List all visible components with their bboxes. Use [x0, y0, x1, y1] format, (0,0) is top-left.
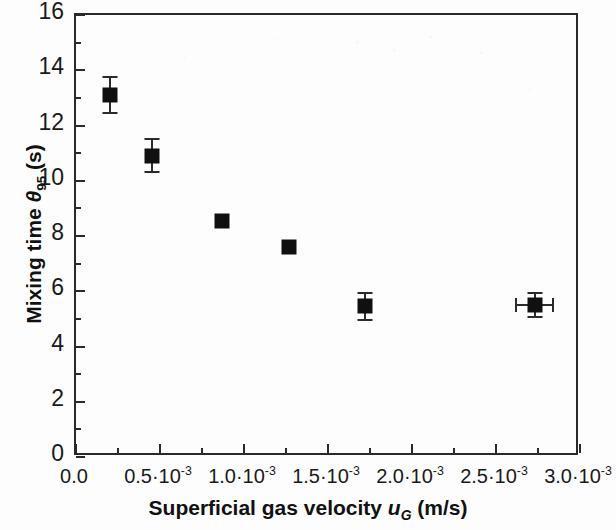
- error-bar-cap: [102, 76, 117, 78]
- error-bar-cap: [527, 316, 542, 318]
- data-point-marker: [144, 148, 159, 163]
- y-axis-minor-tick: [76, 97, 81, 99]
- error-bar-cap: [102, 112, 117, 114]
- y-axis-tick-label: 2: [14, 385, 64, 412]
- figure-container: 0246810121416 0.00.5·10-31.0·10-31.5·10-…: [0, 0, 616, 530]
- data-point-marker: [527, 298, 542, 313]
- y-axis-minor-tick: [76, 207, 81, 209]
- x-axis-tick-label: 1.5·10-3: [292, 465, 360, 488]
- y-axis-major-tick: [76, 14, 85, 16]
- y-axis-major-tick: [76, 235, 85, 237]
- data-point-marker: [102, 88, 117, 103]
- x-axis-major-tick: [159, 444, 161, 453]
- y-axis-tick-label: 0: [14, 440, 64, 467]
- x-axis-minor-tick: [285, 448, 287, 453]
- y-axis-tick-label: 14: [14, 53, 64, 80]
- y-axis-major-tick: [76, 456, 85, 458]
- x-axis-minor-tick: [537, 448, 539, 453]
- y-axis-minor-tick: [76, 152, 81, 154]
- error-bar-cap: [144, 171, 159, 173]
- plot-area: [76, 15, 576, 453]
- y-axis-major-tick: [76, 346, 85, 348]
- y-axis-minor-tick: [76, 373, 81, 375]
- x-axis-minor-tick: [201, 448, 203, 453]
- x-axis-tick-label: 2.5·10-3: [460, 465, 528, 488]
- x-axis-tick-label: 3.0·10-3: [544, 465, 612, 488]
- data-point-marker: [282, 240, 297, 255]
- x-axis-minor-tick: [117, 448, 119, 453]
- x-axis-major-tick: [327, 444, 329, 453]
- x-axis-tick-label: 1.0·10-3: [208, 465, 276, 488]
- y-axis-minor-tick: [76, 263, 81, 265]
- x-axis-major-tick: [75, 444, 77, 453]
- y-axis-major-tick: [76, 401, 85, 403]
- y-axis-major-tick: [76, 69, 85, 71]
- error-bar-cap: [527, 292, 542, 294]
- error-bar-cap: [552, 298, 554, 312]
- x-axis-tick-label: 2.0·10-3: [376, 465, 444, 488]
- x-axis-minor-tick: [453, 448, 455, 453]
- x-axis-major-tick: [579, 444, 581, 453]
- y-axis-minor-tick: [76, 318, 81, 320]
- x-axis-major-tick: [495, 444, 497, 453]
- y-axis-minor-tick: [76, 42, 81, 44]
- error-bar-cap: [357, 319, 372, 321]
- x-axis-tick-label: 0.0: [60, 465, 88, 488]
- error-bar-cap: [357, 292, 372, 294]
- data-point-marker: [357, 299, 372, 314]
- data-point-marker: [215, 213, 230, 228]
- x-axis-tick-label: 0.5·10-3: [124, 465, 192, 488]
- y-axis-major-tick: [76, 180, 85, 182]
- y-axis-major-tick: [76, 125, 85, 127]
- error-bar-cap: [515, 298, 517, 312]
- error-bar-cap: [144, 138, 159, 140]
- y-axis-tick-label: 16: [14, 0, 64, 25]
- x-axis-major-tick: [243, 444, 245, 453]
- x-axis-major-tick: [411, 444, 413, 453]
- y-axis-minor-tick: [76, 428, 81, 430]
- y-axis-title: Mixing time θ95 (s): [22, 104, 46, 364]
- y-axis-major-tick: [76, 290, 85, 292]
- x-axis-minor-tick: [369, 448, 371, 453]
- x-axis-title: Superficial gas velocity uG (m/s): [0, 496, 616, 520]
- plot-frame: [74, 13, 578, 455]
